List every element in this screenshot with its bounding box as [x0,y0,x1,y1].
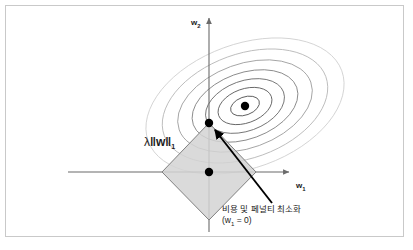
norm-subscript: 1 [171,143,175,150]
penalty-term-label: λ‖w‖1 [144,136,175,151]
unregularized-minimum-point [241,102,249,110]
x-axis-label-subscript: 1 [302,186,305,192]
figure-container: w2 w1 λ‖w‖1 비용 및 페널티 최소화 (w1 = 0) [0,0,413,250]
caption-line-1: 비용 및 페널티 최소화 [222,204,301,214]
y-axis-label-subscript: 2 [197,23,200,29]
caption-line-2: (w1 = 0) [222,216,301,228]
lasso-solution-point [205,119,213,127]
caption-line-2-prefix: (w [222,215,231,225]
x-axis-label: w1 [296,181,306,192]
solution-caption: 비용 및 페널티 최소화 (w1 = 0) [222,205,301,227]
caption-line-2-suffix: = 0) [234,215,251,225]
plot-canvas [0,0,413,250]
norm-variable: w [156,135,165,149]
y-axis-label: w2 [191,18,201,29]
origin-point [205,168,213,176]
